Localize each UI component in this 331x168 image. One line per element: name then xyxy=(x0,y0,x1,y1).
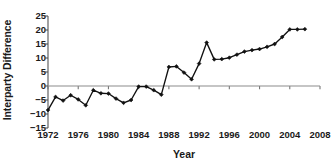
data-point-marker xyxy=(303,27,307,31)
data-point-marker xyxy=(220,57,224,61)
series-line xyxy=(48,29,305,110)
plot-area xyxy=(0,0,331,168)
data-point-marker xyxy=(258,47,262,51)
data-point-marker xyxy=(243,50,247,54)
data-series-interparty-difference xyxy=(48,29,305,110)
data-point-marker xyxy=(167,65,171,69)
x-axis-title: Year xyxy=(48,148,320,160)
chart-figure: Interparty Difference 2520151050−5−10−15… xyxy=(0,0,331,168)
data-point-marker xyxy=(235,53,239,57)
data-point-marker xyxy=(99,91,103,95)
data-point-marker xyxy=(295,28,299,32)
data-point-marker xyxy=(227,56,231,60)
data-point-markers xyxy=(46,27,307,112)
data-point-marker xyxy=(250,48,254,52)
data-point-marker xyxy=(265,45,269,49)
